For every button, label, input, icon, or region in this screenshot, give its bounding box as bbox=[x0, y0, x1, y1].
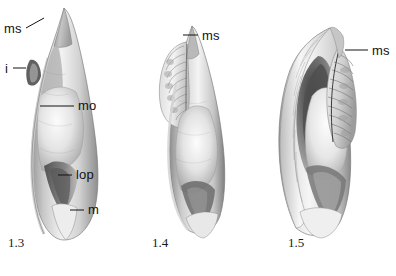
label-1-3-mo: mo bbox=[78, 99, 96, 112]
label-1-5-ms: ms bbox=[372, 44, 390, 57]
label-1-3-m: m bbox=[88, 203, 99, 216]
specimen-1-5 bbox=[279, 27, 357, 238]
figure-number-1-3: 1.3 bbox=[8, 236, 24, 249]
illustration-plate: ms i mo lop m ms ms 1.3 1.4 1.5 bbox=[0, 0, 396, 276]
label-1-3-i: i bbox=[5, 62, 8, 75]
figure-number-1-5: 1.5 bbox=[288, 236, 304, 249]
figure-number-1-4: 1.4 bbox=[152, 236, 168, 249]
specimen-1-4 bbox=[159, 26, 224, 238]
specimen-artwork bbox=[0, 0, 396, 276]
label-1-3-ms: ms bbox=[4, 22, 22, 35]
label-1-4-ms: ms bbox=[202, 29, 220, 42]
leader-1-3-ms bbox=[26, 18, 44, 28]
label-1-3-lop: lop bbox=[76, 168, 94, 181]
